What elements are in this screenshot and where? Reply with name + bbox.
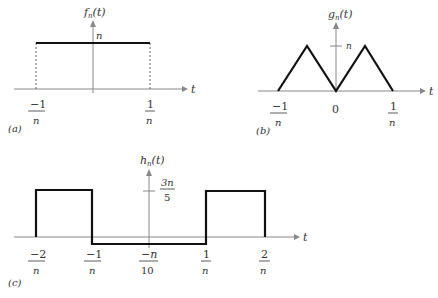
tick-right-den: n	[389, 117, 395, 128]
y-axis-label: gn(t)	[328, 8, 353, 22]
tick-4-den: n	[202, 265, 208, 276]
panel-label: (b)	[256, 125, 270, 136]
y-axis-label: hn(t)	[140, 154, 165, 168]
panel-label: (a)	[8, 123, 22, 134]
height-label: n	[96, 30, 102, 41]
tick-left-num: −1	[272, 100, 288, 113]
tick-4-num: 1	[203, 248, 210, 261]
tick-1-den: n	[33, 265, 39, 276]
tick-left-num: −1	[30, 98, 46, 111]
y-axis-arrow-icon	[333, 22, 339, 29]
tick-3-den: 10	[141, 265, 154, 276]
figure: t fn(t) n −1 n 1 n (a) t gn(t) n −1 n 0 …	[0, 0, 438, 298]
height-label-num: 3n	[161, 177, 174, 188]
y-axis-arrow-icon	[90, 20, 96, 27]
t-axis-label: t	[191, 83, 196, 96]
tick-left-den: n	[33, 115, 39, 126]
panel-a: t fn(t) n −1 n 1 n (a)	[8, 6, 196, 134]
tick-left-den: n	[275, 117, 281, 128]
t-axis-arrow-icon	[294, 234, 300, 240]
tick-right-den: n	[146, 115, 152, 126]
tick-2-num: −1	[86, 248, 102, 261]
t-axis-label: t	[303, 231, 308, 244]
panel-b: t gn(t) n −1 n 0 1 n (b)	[256, 8, 434, 136]
tick-3-num: −n	[141, 248, 157, 261]
tick-1-num: −2	[30, 248, 46, 261]
t-axis-arrow-icon	[420, 88, 426, 94]
tick-5-num: 2	[261, 248, 268, 261]
t-axis-label: t	[429, 85, 434, 98]
height-label: n	[346, 41, 352, 51]
y-axis-arrow-icon	[146, 169, 152, 176]
tick-5-den: n	[260, 265, 266, 276]
height-label-den: 5	[164, 192, 170, 203]
panel-c: t hn(t) 3n 5 −2 n −1 n −n 10 1 n 2 n (c)	[8, 154, 308, 288]
y-axis-label: fn(t)	[83, 6, 106, 20]
tick-right-num: 1	[147, 98, 154, 111]
tick-zero: 0	[332, 103, 339, 116]
tick-right-num: 1	[390, 100, 397, 113]
step-waveform	[36, 190, 265, 244]
t-axis-arrow-icon	[182, 86, 188, 92]
tick-2-den: n	[89, 265, 95, 276]
panel-label: (c)	[8, 277, 22, 288]
